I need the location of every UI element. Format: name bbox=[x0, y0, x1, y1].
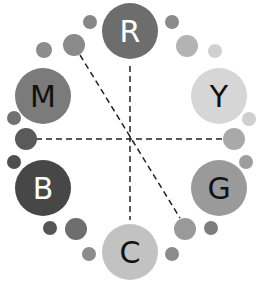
dot-y-g-mid bbox=[223, 128, 245, 150]
node-y-label: Y bbox=[209, 79, 229, 114]
node-g: G bbox=[191, 160, 247, 216]
node-y: Y bbox=[191, 68, 247, 124]
dot-y-g-a bbox=[242, 112, 256, 126]
node-b-label: B bbox=[33, 171, 54, 206]
node-g-label: G bbox=[207, 171, 230, 206]
dot-b-m-a bbox=[7, 155, 21, 169]
color-wheel-diagram: R Y G C B M bbox=[0, 0, 263, 282]
node-c: C bbox=[102, 224, 158, 280]
dot-r-y-top bbox=[165, 15, 179, 29]
dot-c-b-b bbox=[43, 221, 57, 235]
node-r: R bbox=[102, 3, 158, 59]
dot-r-y-mid bbox=[176, 35, 198, 57]
dot-g-c-a bbox=[204, 221, 218, 235]
dot-b-m-b bbox=[7, 111, 21, 125]
dot-b-m-mid bbox=[15, 128, 37, 150]
node-m-label: M bbox=[30, 79, 56, 114]
node-r-label: R bbox=[120, 14, 141, 49]
dot-m-r-mid bbox=[63, 34, 85, 56]
dot-y-g-b bbox=[239, 155, 253, 169]
node-c-label: C bbox=[120, 235, 141, 270]
dot-m-r-outer bbox=[36, 42, 52, 58]
dot-g-c-mid bbox=[174, 218, 196, 240]
node-m: M bbox=[15, 68, 71, 124]
dot-c-b-a bbox=[82, 247, 96, 261]
dot-c-b-mid bbox=[65, 218, 87, 240]
node-b: B bbox=[15, 160, 71, 216]
dot-m-r-top bbox=[83, 15, 97, 29]
dot-g-c-b bbox=[165, 247, 179, 261]
dot-y-outer bbox=[208, 44, 222, 58]
